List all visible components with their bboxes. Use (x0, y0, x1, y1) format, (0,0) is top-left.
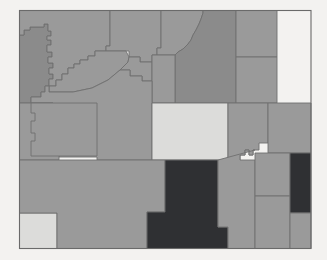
county-niobrara[interactable] (268, 103, 311, 153)
county-uinta[interactable] (20, 213, 58, 249)
county-weston[interactable] (236, 57, 277, 103)
county-platte[interactable] (255, 153, 290, 196)
county-sublette[interactable] (31, 103, 97, 156)
county-natrona[interactable] (152, 103, 228, 160)
county-goshen[interactable] (255, 196, 290, 249)
wyoming-county-map (0, 0, 327, 260)
county-crook[interactable] (236, 11, 277, 58)
county-johnson[interactable] (152, 55, 175, 103)
county-laramie-south-strip[interactable] (290, 213, 311, 249)
choropleth-map-figure (0, 0, 327, 260)
county-laramie[interactable] (290, 153, 311, 213)
